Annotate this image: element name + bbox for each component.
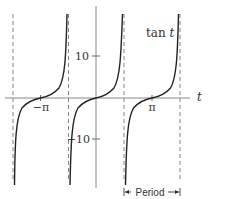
y-tick-label-neg10: −10: [67, 133, 90, 146]
y-tick-label-10: 10: [75, 50, 89, 63]
t-axis-label: t: [197, 90, 202, 104]
period-right-arrow-icon: [175, 190, 179, 194]
x-tick-label-pi: π: [148, 101, 155, 114]
curve-label: tan t: [146, 26, 175, 40]
x-tick-label-neg-pi: −π: [33, 101, 49, 114]
period-label: Period: [136, 187, 165, 198]
period-left-arrow-icon: [125, 190, 129, 194]
tangent-chart: 10 −10 −π π t tan t Period: [0, 0, 236, 199]
